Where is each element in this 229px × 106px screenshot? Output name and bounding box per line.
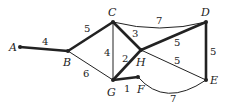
edge-weight-C-H: 3	[132, 28, 138, 39]
node-F	[136, 75, 140, 79]
edge-F-E	[138, 77, 206, 93]
node-A	[18, 45, 22, 49]
node-label-A: A	[8, 41, 17, 54]
node-G	[111, 78, 115, 82]
edge-weight-B-C: 5	[84, 23, 90, 34]
node-C	[111, 20, 115, 24]
node-label-H: H	[135, 56, 146, 69]
weighted-graph: 456432557517ABCDEFGH	[0, 0, 229, 106]
edge-weight-H-E: 5	[174, 55, 180, 66]
edge-weight-D-E: 5	[210, 46, 216, 57]
node-E	[204, 78, 208, 82]
node-label-G: G	[107, 86, 116, 99]
edge-weight-F-E: 7	[170, 93, 176, 104]
edge-weight-A-B: 4	[42, 36, 48, 47]
edge-weight-B-G: 6	[83, 68, 89, 79]
edge-A-B	[20, 47, 68, 51]
node-label-D: D	[200, 6, 210, 19]
node-label-E: E	[209, 74, 218, 87]
node-H	[139, 48, 143, 52]
edge-weight-C-G: 4	[104, 47, 110, 58]
edge-weight-G-F: 1	[124, 83, 130, 94]
node-D	[204, 20, 208, 24]
edge-weight-C-D: 7	[156, 15, 162, 26]
node-label-C: C	[108, 6, 117, 19]
edge-weight-G-H: 2	[122, 53, 128, 64]
node-B	[66, 49, 70, 53]
node-label-B: B	[62, 56, 71, 69]
node-label-F: F	[136, 83, 145, 96]
edge-weight-H-D: 5	[174, 37, 180, 48]
